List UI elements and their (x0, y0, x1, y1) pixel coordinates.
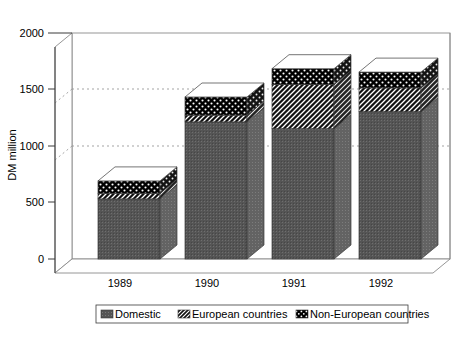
bar-1989-noneuropean-front (98, 181, 160, 193)
legend-item-non-european[interactable]: Non-European countries (296, 308, 430, 320)
y-tick-label-1500: 1500 (20, 83, 44, 95)
bar-1991-european-front (272, 85, 334, 129)
y-tick-label-0: 0 (38, 253, 44, 265)
y-tick-label-1000: 1000 (20, 140, 44, 152)
bar-1991-domestic-front (272, 129, 334, 259)
bar-group-1989 (98, 167, 177, 259)
legend-item-european[interactable]: European countries (178, 308, 288, 320)
y-tick-label-2000: 2000 (20, 27, 44, 39)
legend: Domestic European countries Non-European… (96, 305, 430, 323)
legend-label-domestic: Domestic (115, 308, 161, 320)
y-tick-label-500: 500 (26, 196, 44, 208)
legend-label-european: European countries (192, 308, 288, 320)
legend-label-non-european: Non-European countries (310, 308, 430, 320)
bar-1992-european-front (359, 88, 421, 112)
bar-1992-noneuropean-front (359, 72, 421, 88)
bar-1990-domestic-front (185, 122, 247, 259)
european-swatch-icon (178, 310, 190, 318)
domestic-swatch-icon (101, 310, 113, 318)
legend-item-domestic[interactable]: Domestic (101, 308, 161, 320)
non-european-swatch-icon (296, 310, 308, 318)
bar-1990-domestic-side (247, 108, 264, 259)
bar-1990-noneuropean-front (185, 97, 247, 115)
x-tick-label-1992: 1992 (369, 277, 393, 289)
bar-1989-european-front (98, 193, 160, 199)
bar-1991-domestic-side (334, 115, 351, 259)
stacked-bar-chart-3d: 2000 1500 1000 500 0 DM million (0, 0, 470, 343)
x-tick-label-1990: 1990 (195, 277, 219, 289)
bar-1992-domestic-side (421, 98, 438, 259)
x-axis: 1989 1990 1991 1992 (108, 277, 393, 289)
y-axis-title: DM million (6, 129, 18, 180)
x-tick-label-1991: 1991 (282, 277, 306, 289)
x-tick-label-1989: 1989 (108, 277, 132, 289)
bar-group-1991 (272, 55, 351, 259)
chart-container: 2000 1500 1000 500 0 DM million (0, 0, 470, 343)
floor (55, 259, 450, 273)
bar-1992-domestic-front (359, 112, 421, 259)
bar-1989-domestic-front (98, 199, 160, 259)
bar-1990-european-front (185, 115, 247, 122)
bar-1991-noneuropean-front (272, 69, 334, 85)
bar-group-1992 (359, 58, 438, 259)
bar-group-1990 (185, 83, 264, 259)
